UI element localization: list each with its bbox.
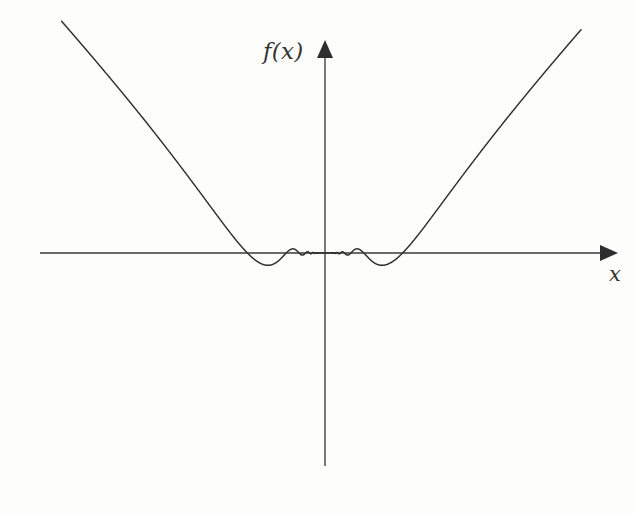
function-plot-figure: f(x) x xyxy=(0,0,636,516)
x-axis-label: x xyxy=(609,262,621,286)
x-axis-arrowhead xyxy=(600,245,618,261)
plot-canvas xyxy=(0,0,636,516)
y-axis-arrowhead xyxy=(317,40,333,58)
y-axis-label: f(x) xyxy=(263,38,304,64)
